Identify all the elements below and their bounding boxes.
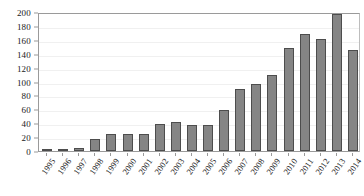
x-axis-tick-mark: [78, 153, 79, 156]
x-axis-tick-mark: [191, 153, 192, 156]
x-axis-tick-mark: [223, 153, 224, 156]
x-axis-tick-mark: [255, 153, 256, 156]
y-axis-tick-mark: [34, 138, 38, 139]
bar: [171, 122, 181, 151]
y-axis-tick-mark: [34, 54, 38, 55]
x-axis-tick-mark: [336, 153, 337, 156]
x-axis-tick-label: 2004: [185, 157, 202, 176]
x-axis: 1995199619971998199920002001200220032004…: [0, 153, 364, 196]
x-axis-tick-mark: [207, 153, 208, 156]
y-axis-tick-label: 20: [22, 134, 31, 143]
x-axis-tick-mark: [46, 153, 47, 156]
y-axis-tick-mark: [34, 40, 38, 41]
x-axis-tick-label: 2009: [265, 157, 282, 176]
bar: [284, 48, 294, 151]
y-axis-tick-mark: [34, 68, 38, 69]
x-axis-tick-label: 2007: [233, 157, 250, 176]
y-axis-tick-label: 160: [17, 36, 31, 45]
y-axis-tick-label: 60: [22, 106, 31, 115]
x-axis-tick-label: 2001: [137, 157, 154, 176]
x-axis-tick-mark: [352, 153, 353, 156]
x-axis-tick-mark: [94, 153, 95, 156]
y-axis-tick-label: 80: [22, 92, 31, 101]
y-axis-tick-label: 40: [22, 120, 31, 129]
x-axis-tick-label: 2003: [169, 157, 186, 176]
bar: [300, 34, 310, 151]
bars-layer: [39, 14, 359, 151]
y-axis-tick-mark: [34, 124, 38, 125]
x-axis-tick-mark: [288, 153, 289, 156]
y-axis-tick-label: 200: [17, 9, 31, 18]
x-axis-tick-label: 2014: [346, 157, 363, 176]
bar: [235, 89, 245, 151]
bar: [203, 125, 213, 151]
bar: [187, 125, 197, 151]
x-axis-tick-mark: [127, 153, 128, 156]
x-axis-tick-label: 2005: [201, 157, 218, 176]
bar: [348, 50, 358, 151]
x-axis-tick-mark: [110, 153, 111, 156]
y-axis-tick-mark: [34, 96, 38, 97]
y-axis-tick-mark: [34, 13, 38, 14]
bar: [58, 149, 68, 151]
x-axis-tick-label: 1997: [72, 157, 89, 176]
bar: [90, 139, 100, 151]
x-axis-tick-label: 2006: [217, 157, 234, 176]
x-axis-tick-mark: [271, 153, 272, 156]
bar: [332, 14, 342, 151]
x-axis-tick-mark: [239, 153, 240, 156]
y-axis-tick-label: 140: [17, 50, 31, 59]
x-axis-tick-label: 2010: [282, 157, 299, 176]
x-axis-tick-label: 2008: [249, 157, 266, 176]
bar: [267, 75, 277, 151]
x-axis-tick-mark: [143, 153, 144, 156]
x-axis-tick-mark: [159, 153, 160, 156]
x-axis-tick-mark: [175, 153, 176, 156]
bar: [219, 110, 229, 151]
bar: [139, 134, 149, 151]
y-axis-tick-label: 120: [17, 64, 31, 73]
x-axis-tick-label: 2011: [298, 157, 315, 176]
bar: [251, 84, 261, 151]
bar-chart: 020406080100120140160180200 199519961997…: [0, 0, 364, 196]
y-axis-tick-label: 180: [17, 22, 31, 31]
x-axis-tick-label: 2002: [153, 157, 170, 176]
x-axis-tick-mark: [304, 153, 305, 156]
y-axis-tick-mark: [34, 110, 38, 111]
bar: [155, 124, 165, 151]
x-axis-tick-label: 2013: [330, 157, 347, 176]
y-axis-tick-mark: [34, 26, 38, 27]
bar: [74, 148, 84, 151]
x-axis-tick-label: 2000: [121, 157, 138, 176]
x-axis-tick-mark: [62, 153, 63, 156]
y-axis-tick-label: 100: [17, 78, 31, 87]
bar: [123, 134, 133, 151]
bar: [42, 149, 52, 151]
x-axis-tick-label: 1996: [56, 157, 73, 176]
x-axis-tick-label: 2012: [314, 157, 331, 176]
plot-area: [38, 13, 360, 152]
x-axis-tick-label: 1999: [104, 157, 121, 176]
bar: [316, 39, 326, 151]
y-axis-tick-mark: [34, 82, 38, 83]
x-axis-tick-mark: [320, 153, 321, 156]
x-axis-tick-label: 1998: [88, 157, 105, 176]
bar: [106, 134, 116, 151]
x-axis-tick-label: 1995: [40, 157, 57, 176]
